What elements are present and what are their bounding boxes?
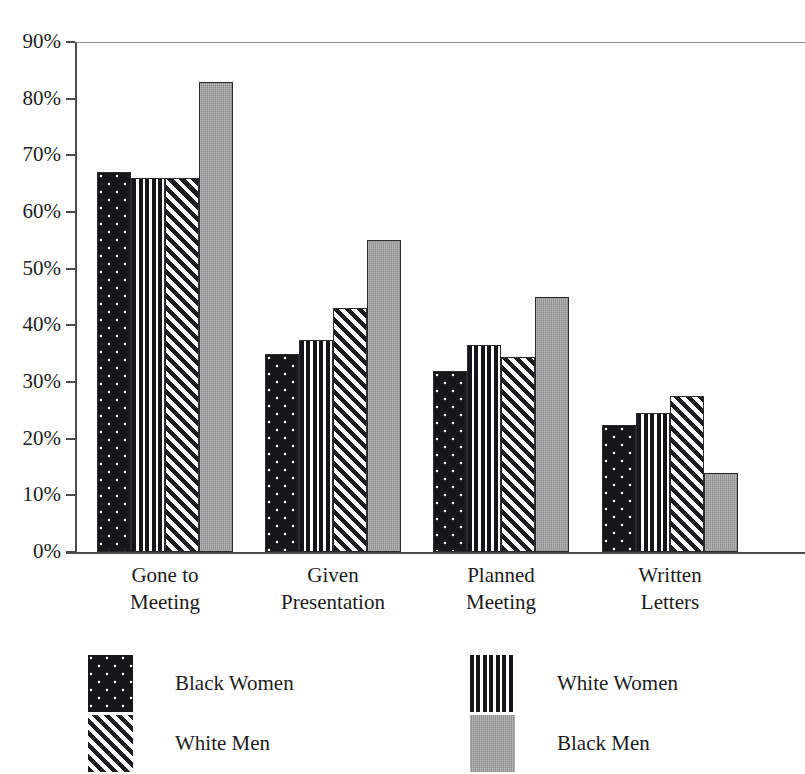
bar-fill	[433, 371, 467, 552]
bar	[299, 42, 333, 552]
bar-fill	[670, 396, 704, 552]
bar-chart-figure: 90%80%70%60%50%40%30%20%10%0% Gone toMee…	[0, 0, 805, 774]
bar-fill	[501, 357, 535, 553]
bar	[97, 42, 131, 552]
bar	[333, 42, 367, 552]
bar	[265, 42, 299, 552]
x-axis-baseline	[66, 552, 805, 554]
bar-fill	[704, 473, 738, 552]
legend-swatch-diag	[88, 715, 133, 772]
y-axis-tick-label: 50%	[3, 258, 61, 279]
legend-swatch-gray	[470, 715, 515, 772]
bar-fill	[165, 178, 199, 552]
bar-fill	[602, 425, 636, 553]
bar	[670, 42, 704, 552]
y-axis-tick-label: 40%	[3, 314, 61, 335]
y-axis-tick	[66, 211, 75, 213]
legend-label: White Men	[175, 731, 270, 756]
legend-item: White Women	[470, 655, 678, 712]
bar-fill	[535, 297, 569, 552]
y-axis-tick	[66, 438, 75, 440]
bar	[704, 42, 738, 552]
y-axis-tick	[66, 98, 75, 100]
bar	[131, 42, 165, 552]
plot-area: 90%80%70%60%50%40%30%20%10%0%	[75, 42, 805, 552]
x-axis-category-label: WrittenLetters	[545, 562, 795, 616]
y-axis-tick-label: 90%	[3, 31, 61, 52]
y-axis-tick	[66, 324, 75, 326]
y-axis-tick	[66, 41, 75, 43]
bar-fill	[367, 240, 401, 552]
bar-fill	[265, 354, 299, 552]
y-axis-tick-label: 60%	[3, 201, 61, 222]
bar	[467, 42, 501, 552]
bar-fill	[199, 82, 233, 552]
bar-fill	[299, 340, 333, 553]
chart-title	[0, 0, 805, 4]
y-axis-tick	[66, 551, 75, 553]
y-axis-tick-label: 70%	[3, 144, 61, 165]
bar	[367, 42, 401, 552]
bar	[602, 42, 636, 552]
bar	[165, 42, 199, 552]
legend-label: Black Men	[557, 731, 650, 756]
bar-fill	[333, 308, 367, 552]
y-axis-tick-label: 80%	[3, 88, 61, 109]
y-axis-tick-label: 10%	[3, 484, 61, 505]
legend-item: Black Men	[470, 715, 650, 772]
bar	[535, 42, 569, 552]
legend-item: Black Women	[88, 655, 294, 712]
legend-label: Black Women	[175, 671, 294, 696]
y-axis-tick-label: 20%	[3, 428, 61, 449]
bar-fill	[467, 345, 501, 552]
chart-legend: Black WomenWhite WomenWhite MenBlack Men	[0, 655, 805, 774]
y-axis-tick	[66, 154, 75, 156]
bar-fill	[97, 172, 131, 552]
y-axis-tick-label: 30%	[3, 371, 61, 392]
legend-item: White Men	[88, 715, 270, 772]
legend-swatch-vstripe	[470, 655, 515, 712]
legend-swatch-dots	[88, 655, 133, 712]
bar	[636, 42, 670, 552]
y-axis-tick	[66, 381, 75, 383]
bar	[433, 42, 467, 552]
legend-label: White Women	[557, 671, 678, 696]
bar	[199, 42, 233, 552]
bar	[501, 42, 535, 552]
y-axis-tick	[66, 268, 75, 270]
bar-fill	[131, 178, 165, 552]
y-axis-tick-label: 0%	[3, 541, 61, 562]
bar-fill	[636, 413, 670, 552]
y-axis-tick	[66, 494, 75, 496]
